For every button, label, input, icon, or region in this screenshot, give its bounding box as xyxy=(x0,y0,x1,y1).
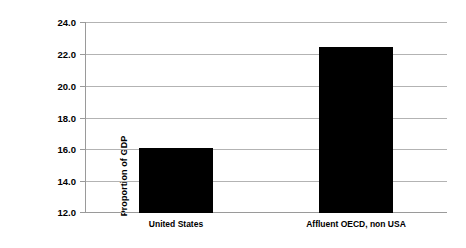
tick-mark-16 xyxy=(80,149,85,150)
y-tick-label-16: 16.0 xyxy=(58,144,77,155)
x-tick-label-united-states: United States xyxy=(149,219,203,229)
tick-mark-22 xyxy=(80,54,85,55)
y-tick-label-12: 12.0 xyxy=(58,207,77,218)
bar-affluent-oecd[interactable] xyxy=(319,47,393,213)
y-tick-label-20: 20.0 xyxy=(58,80,77,91)
tick-mark-12 xyxy=(80,212,85,213)
y-tick-label-18: 18.0 xyxy=(58,112,77,123)
x-tick-label-affluent-oecd: Affluent OECD, non USA xyxy=(306,219,406,229)
plot-area: 24.0 22.0 20.0 18.0 16.0 14.0 12.0 Unite… xyxy=(85,22,447,213)
tick-mark-18 xyxy=(80,118,85,119)
bar-united-states[interactable] xyxy=(139,148,213,213)
y-tick-label-22: 22.0 xyxy=(58,48,77,59)
tick-mark-14 xyxy=(80,181,85,182)
tick-mark-20 xyxy=(80,86,85,87)
gridline-24 xyxy=(86,22,447,23)
bar-chart: Proportion of GDP 24.0 22.0 20.0 18.0 16… xyxy=(0,0,466,248)
y-tick-label-14: 14.0 xyxy=(58,176,77,187)
y-tick-label-24: 24.0 xyxy=(58,17,77,28)
tick-mark-24 xyxy=(80,22,85,23)
